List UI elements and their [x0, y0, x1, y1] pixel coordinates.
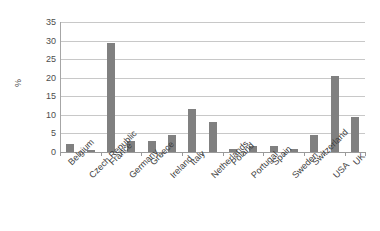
bar — [66, 144, 74, 152]
bar — [310, 135, 318, 152]
x-axis-tick — [141, 152, 142, 156]
y-axis-title: % — [13, 73, 23, 93]
x-axis-tick — [263, 152, 264, 156]
x-axis-tick — [345, 152, 346, 156]
x-axis-tick — [324, 152, 325, 156]
x-axis-tick — [80, 152, 81, 156]
x-axis-tick — [202, 152, 203, 156]
y-axis-tick-label: 20 — [28, 74, 56, 83]
y-axis-tick-label: 35 — [28, 18, 56, 27]
bars-container — [60, 22, 365, 152]
x-axis-tick — [162, 152, 163, 156]
bar — [351, 117, 359, 152]
x-axis-tick — [223, 152, 224, 156]
y-axis-tick-labels: 35302520151050 — [28, 16, 56, 158]
bar — [331, 76, 339, 152]
x-axis-tick — [60, 152, 61, 156]
x-axis-tick — [121, 152, 122, 156]
bar — [127, 141, 135, 153]
x-axis-tick — [182, 152, 183, 156]
x-axis-tick — [304, 152, 305, 156]
y-axis-tick-label: 10 — [28, 111, 56, 120]
y-axis-tick-label: 0 — [28, 148, 56, 157]
bar — [188, 109, 196, 152]
bar — [168, 135, 176, 152]
y-axis-tick-label: 25 — [28, 55, 56, 64]
y-axis-tick-label: 30 — [28, 37, 56, 46]
x-axis-ticks — [60, 152, 365, 156]
plot-area — [60, 22, 365, 152]
x-axis-tick — [243, 152, 244, 156]
x-axis-category-label: USA — [331, 160, 351, 180]
y-axis-tick-label: 5 — [28, 129, 56, 138]
y-axis-tick-label: 15 — [28, 92, 56, 101]
x-axis-tick — [365, 152, 366, 156]
bar — [107, 43, 115, 152]
x-axis-tick — [101, 152, 102, 156]
x-axis-tick — [284, 152, 285, 156]
bar — [209, 122, 217, 152]
bar-chart: % 35302520151050 BelgiumCzech RepublicFr… — [0, 0, 380, 231]
x-axis-category-label: Ireland — [168, 154, 195, 181]
bar — [148, 141, 156, 153]
